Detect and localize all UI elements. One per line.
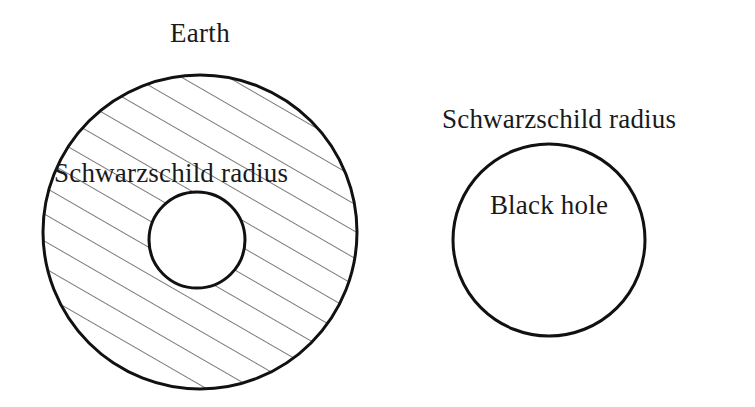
black-hole-schwarzschild-radius-label: Schwarzschild radius — [442, 106, 676, 133]
earth-label: Earth — [0, 20, 400, 47]
earth-hatch-fill — [43, 75, 357, 389]
black-hole-label: Black hole — [453, 192, 645, 219]
schwarzschild-radius-diagram: Earth Schwarzschild radius Schwarzschild… — [0, 0, 755, 407]
earth-schwarzschild-radius-label: Schwarzschild radius — [54, 160, 288, 187]
